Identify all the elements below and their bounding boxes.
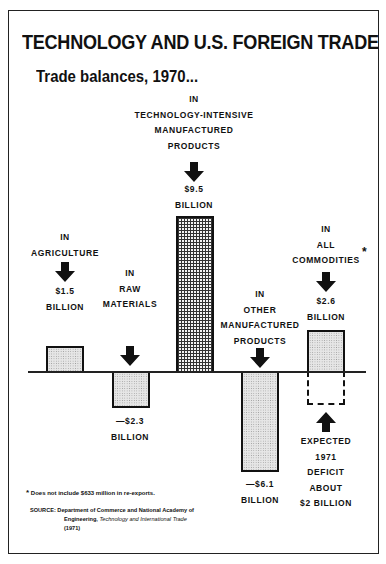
bar-technology-intensive — [176, 216, 214, 373]
down-arrow-icon — [120, 346, 140, 366]
label-raw-materials: IN RAW MATERIALS — [103, 266, 157, 313]
value-agriculture: $1.5 BILLION — [46, 284, 84, 315]
bar-expected-1971-deficit — [307, 371, 345, 405]
bar-other-manufactured — [241, 371, 279, 472]
up-arrow-icon — [316, 412, 336, 432]
chart-title: TECHNOLOGY AND U.S. FOREIGN TRADE — [22, 30, 379, 54]
down-arrow-icon — [55, 262, 75, 282]
zero-baseline — [28, 371, 366, 373]
down-arrow-icon — [316, 272, 336, 292]
value-other-manufactured: —$6.1 BILLION — [241, 477, 279, 508]
chart-subtitle: Trade balances, 1970... — [36, 67, 198, 87]
value-all-commodities: $2.6 BILLION — [307, 294, 345, 325]
label-other-manufactured: IN OTHER MANUFACTURED PRODUCTS — [221, 287, 300, 349]
value-raw-materials: —$2.3 BILLION — [111, 414, 149, 445]
footnote: * Does not include $633 million in re-ex… — [26, 488, 155, 497]
label-all-commodities: IN ALL COMMODITIES — [292, 222, 360, 269]
down-arrow-icon — [184, 162, 204, 182]
label-technology-intensive: IN TECHNOLOGY-INTENSIVE MANUFACTURED PRO… — [134, 92, 253, 154]
source-note: SOURCE: Department of Commerce and Natio… — [30, 506, 194, 533]
bar-raw-materials — [112, 371, 150, 408]
value-technology-intensive: $9.5 BILLION — [175, 182, 213, 213]
down-arrow-icon — [250, 348, 270, 368]
bar-all-commodities — [307, 330, 345, 373]
label-agriculture: IN AGRICULTURE — [31, 230, 99, 261]
label-expected-deficit: EXPECTED 1971 DEFICIT ABOUT $2 BILLION — [300, 434, 352, 512]
footnote-marker: * — [362, 245, 367, 259]
bar-agriculture — [46, 346, 84, 373]
